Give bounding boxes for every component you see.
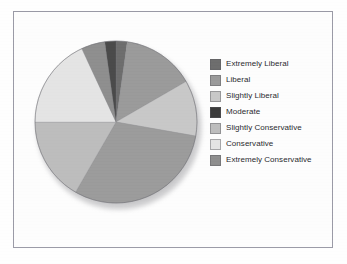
legend-item: Liberal: [210, 72, 332, 88]
legend-color-swatch: [210, 123, 221, 134]
legend-item: Slightly Conservative: [210, 120, 332, 136]
legend-item: Conservative: [210, 136, 332, 152]
legend-item-label: Liberal: [226, 75, 250, 85]
figure-frame: Extremely LiberalLiberalSlightly Liberal…: [13, 11, 333, 248]
legend-item: Extremely Conservative: [210, 152, 332, 168]
legend-color-swatch: [210, 91, 221, 102]
legend-item: Slightly Liberal: [210, 88, 332, 104]
legend-color-swatch: [210, 107, 221, 118]
legend-color-swatch: [210, 155, 221, 166]
chart-legend: Extremely LiberalLiberalSlightly Liberal…: [210, 56, 332, 168]
legend-item-label: Conservative: [226, 139, 273, 149]
legend-item-label: Extremely Conservative: [226, 155, 312, 165]
legend-color-swatch: [210, 75, 221, 86]
legend-item-label: Moderate: [226, 107, 260, 117]
legend-item: Extremely Liberal: [210, 56, 332, 72]
pie-chart-figure: Extremely LiberalLiberalSlightly Liberal…: [14, 12, 334, 249]
pie-slices-svg: [32, 38, 204, 210]
legend-item-label: Slightly Liberal: [226, 91, 279, 101]
pie-slice-group: [35, 41, 197, 203]
legend-item-label: Extremely Liberal: [226, 59, 289, 69]
legend-color-swatch: [210, 59, 221, 70]
legend-color-swatch: [210, 139, 221, 150]
screenshot-page: Extremely LiberalLiberalSlightly Liberal…: [0, 0, 347, 264]
pie-chart: [32, 38, 204, 210]
legend-item: Moderate: [210, 104, 332, 120]
legend-item-label: Slightly Conservative: [226, 123, 302, 133]
